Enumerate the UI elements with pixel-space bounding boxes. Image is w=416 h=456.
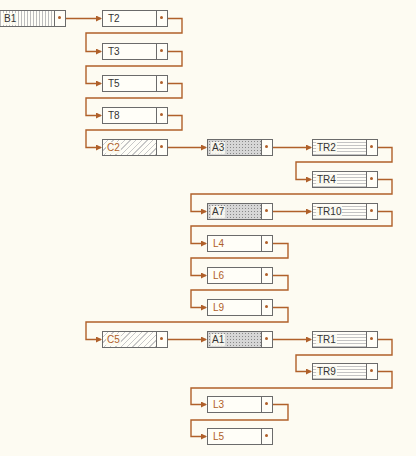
node-tr4: TR4	[312, 171, 378, 188]
node-t2: T2	[102, 10, 168, 27]
pointer-cell	[366, 364, 377, 379]
node-label: L6	[213, 270, 224, 282]
node-label: TR9	[316, 366, 337, 378]
pointer-cell	[156, 76, 167, 91]
connector-layer	[0, 0, 416, 456]
node-c2: C2	[102, 139, 168, 156]
pointer-cell	[366, 332, 377, 347]
pointer-dot-icon	[265, 241, 268, 244]
pointer-dot-icon	[265, 402, 268, 405]
pointer-dot-icon	[265, 337, 268, 340]
node-l4: L4	[207, 235, 273, 252]
pointer-dot-icon	[265, 209, 268, 212]
node-label: T3	[108, 46, 120, 58]
node-l9: L9	[207, 299, 273, 316]
pointer-dot-icon	[370, 337, 373, 340]
pointer-cell	[366, 172, 377, 187]
pointer-dot-icon	[265, 305, 268, 308]
node-label: L9	[213, 302, 224, 314]
pointer-dot-icon	[160, 145, 163, 148]
pointer-cell	[261, 236, 272, 251]
node-label: L5	[213, 431, 224, 443]
node-l3: L3	[207, 396, 273, 413]
pointer-dot-icon	[160, 337, 163, 340]
node-label: B1	[3, 13, 17, 25]
pointer-dot-icon	[370, 209, 373, 212]
node-a1: A1	[207, 331, 273, 348]
node-t5: T5	[102, 75, 168, 92]
node-b1: B1	[0, 10, 66, 27]
pointer-dot-icon	[58, 16, 61, 19]
pointer-cell	[261, 204, 272, 219]
node-tr9: TR9	[312, 363, 378, 380]
node-label: TR4	[316, 174, 337, 186]
node-label: C2	[106, 142, 121, 154]
node-label: C5	[106, 334, 121, 346]
pointer-dot-icon	[370, 369, 373, 372]
pointer-dot-icon	[370, 177, 373, 180]
node-label: T5	[108, 78, 120, 90]
pointer-cell	[261, 429, 272, 444]
pointer-dot-icon	[265, 273, 268, 276]
pointer-cell	[366, 140, 377, 155]
pointer-cell	[261, 268, 272, 283]
node-t8: T8	[102, 107, 168, 124]
node-c5: C5	[102, 331, 168, 348]
node-l5: L5	[207, 428, 273, 445]
pointer-cell	[156, 140, 167, 155]
pointer-cell	[156, 11, 167, 26]
pointer-dot-icon	[160, 16, 163, 19]
pointer-cell	[261, 397, 272, 412]
pointer-cell	[54, 11, 65, 26]
pointer-dot-icon	[160, 81, 163, 84]
node-label: A1	[211, 334, 225, 346]
pointer-cell	[366, 204, 377, 219]
node-tr2: TR2	[312, 139, 378, 156]
pointer-cell	[156, 44, 167, 59]
node-a3: A3	[207, 139, 273, 156]
node-l6: L6	[207, 267, 273, 284]
node-a7: A7	[207, 203, 273, 220]
node-t3: T3	[102, 43, 168, 60]
pointer-cell	[261, 140, 272, 155]
pointer-cell	[156, 108, 167, 123]
node-label: TR10	[316, 206, 342, 218]
node-label: A7	[211, 206, 225, 218]
node-tr1: TR1	[312, 331, 378, 348]
pointer-dot-icon	[370, 145, 373, 148]
pointer-dot-icon	[265, 145, 268, 148]
node-tr10: TR10	[312, 203, 378, 220]
pointer-dot-icon	[160, 113, 163, 116]
node-label: A3	[211, 142, 225, 154]
pointer-cell	[156, 332, 167, 347]
pointer-cell	[261, 332, 272, 347]
pointer-dot-icon	[160, 49, 163, 52]
node-label: T2	[108, 13, 120, 25]
pointer-cell	[261, 300, 272, 315]
node-label: T8	[108, 110, 120, 122]
node-label: L4	[213, 238, 224, 250]
node-label: TR2	[316, 142, 337, 154]
node-label: L3	[213, 399, 224, 411]
pointer-dot-icon	[265, 434, 268, 437]
node-label: TR1	[316, 334, 337, 346]
